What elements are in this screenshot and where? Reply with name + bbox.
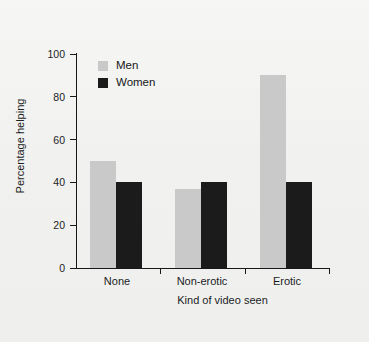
figure-canvas: 100 80 60 40 20 0 Percentage helping Men… <box>0 0 369 342</box>
y-tick-label-0: 0 <box>25 263 65 274</box>
x-tick-mark-2 <box>245 268 246 274</box>
y-tick-label-60: 60 <box>25 135 65 146</box>
x-tick-label-erotic: Erotic <box>273 276 301 287</box>
y-tick-label-40: 40 <box>25 177 65 188</box>
legend: Men Women <box>98 58 155 92</box>
legend-label-women: Women <box>116 77 155 89</box>
legend-swatch-men-icon <box>98 61 108 71</box>
legend-item-women: Women <box>98 75 155 90</box>
plot-area: Men Women <box>76 54 330 268</box>
bar-women-non-erotic[interactable] <box>201 182 227 268</box>
x-tick-label-none: None <box>104 276 130 287</box>
y-axis-title: Percentage helping <box>14 76 26 216</box>
x-tick-mark-1 <box>160 268 161 274</box>
bar-women-erotic[interactable] <box>286 182 312 268</box>
bar-women-none[interactable] <box>116 182 142 268</box>
legend-swatch-women-icon <box>98 78 108 88</box>
y-tick-label-80: 80 <box>25 92 65 103</box>
bar-men-none[interactable] <box>90 161 116 268</box>
legend-label-men: Men <box>116 60 138 72</box>
legend-item-men: Men <box>98 58 155 73</box>
bar-men-non-erotic[interactable] <box>175 189 201 268</box>
y-tick-label-100: 100 <box>25 49 65 60</box>
bar-men-erotic[interactable] <box>260 75 286 268</box>
y-tick-label-20: 20 <box>25 220 65 231</box>
x-tick-label-non-erotic: Non-erotic <box>177 276 228 287</box>
x-axis-title: Kind of video seen <box>0 294 369 306</box>
x-tick-mark-3 <box>329 268 330 274</box>
